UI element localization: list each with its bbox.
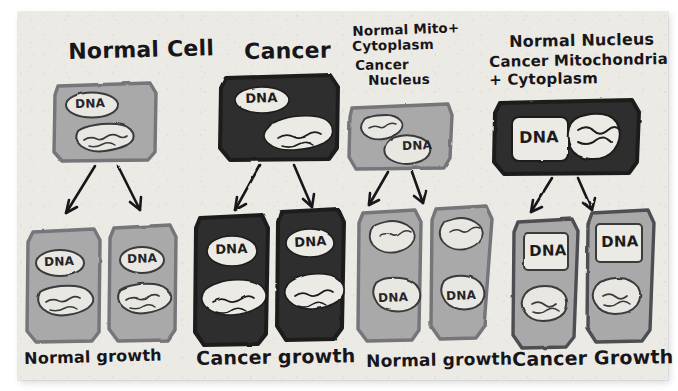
column-4-header-line-2: Cancer Mitochondria	[489, 51, 668, 70]
dna-label-parent-3: DNA	[402, 139, 432, 153]
column-3-header-line-4: Nucleus	[368, 72, 430, 88]
arrows-column-3	[369, 172, 426, 205]
dna-label-daughter-3b: DNA	[446, 289, 476, 303]
dna-label-parent-4: DNA	[519, 128, 559, 146]
cell-cancer-daughter-2	[277, 209, 344, 340]
figure-canvas: Normal Cell Cancer Normal Mito+ Cytoplas…	[0, 0, 678, 391]
column-2-header: Cancer	[244, 38, 331, 63]
cell-hybrid4-parent	[494, 100, 639, 174]
cell-normal-parent	[54, 83, 156, 161]
cell-hybrid4-daughter-1	[513, 219, 578, 348]
outcome-label-2: Cancer growth	[196, 345, 356, 368]
column-3-header-line-2: Cytoplasm	[352, 37, 434, 54]
cell-hybrid3-daughter-1	[358, 210, 421, 341]
arrows-column-2	[235, 165, 314, 210]
dna-label-parent-1: DNA	[75, 97, 105, 111]
arrows-column-1	[66, 166, 141, 213]
cell-hybrid3-daughter-2	[431, 206, 492, 339]
dna-label-daughter-4a: DNA	[529, 242, 566, 259]
column-4-header-line-3: + Cytoplasm	[489, 70, 598, 88]
dna-label-daughter-3a: DNA	[378, 291, 408, 305]
cell-cancer-parent	[220, 75, 338, 160]
column-3-header-line-3: Cancer	[355, 57, 409, 73]
arrows-column-4	[531, 178, 595, 212]
dna-label-daughter-2b: DNA	[294, 234, 327, 250]
cell-normal-daughter-2	[109, 225, 176, 341]
dna-label-daughter-1a: DNA	[44, 255, 74, 269]
column-1-header: Normal Cell	[68, 36, 214, 64]
outcome-label-4: Cancer Growth	[512, 346, 674, 369]
cell-cancer-daughter-1	[195, 215, 268, 345]
column-4-header-line-1: Normal Nucleus	[509, 30, 654, 50]
dna-label-daughter-2a: DNA	[215, 242, 248, 257]
cell-normal-daughter-1	[27, 229, 100, 342]
dna-label-daughter-4b: DNA	[601, 233, 638, 250]
cell-hybrid4-daughter-2	[587, 210, 654, 342]
outcome-label-1: Normal growth	[24, 346, 162, 367]
cell-hybrid3-parent	[349, 104, 452, 169]
outcome-label-3: Normal growth	[366, 349, 512, 370]
dna-label-daughter-1b: DNA	[127, 252, 157, 266]
dna-label-parent-2: DNA	[245, 91, 278, 106]
